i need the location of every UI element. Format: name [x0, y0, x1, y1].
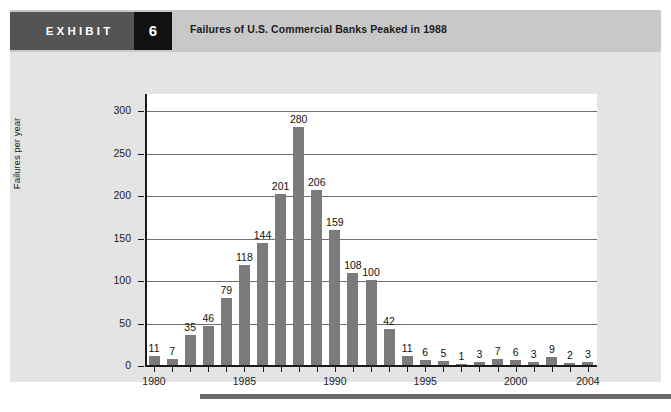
y-tick-label: 250 [91, 147, 131, 159]
x-tick-label: 1985 [219, 375, 269, 387]
y-axis-line [145, 94, 147, 366]
exhibit-number-label: 6 [134, 12, 172, 50]
x-tick-mark [552, 366, 553, 372]
bar-value-label: 46 [188, 312, 228, 324]
x-tick-mark [534, 366, 535, 372]
x-tick-mark [443, 366, 444, 372]
x-tick-mark [317, 366, 318, 372]
bar-value-label: 7 [152, 345, 192, 357]
bar-value-label: 159 [315, 216, 355, 228]
exhibit-tab-label: EXHIBIT [10, 12, 146, 50]
bar-value-label: 42 [369, 315, 409, 327]
y-tick-label: 300 [91, 104, 131, 116]
chart-panel: Failures per year 050100150200250300 117… [10, 52, 661, 382]
x-tick-mark [281, 366, 282, 372]
bar-value-label: 206 [297, 176, 337, 188]
bar [275, 194, 286, 365]
x-tick-mark [190, 366, 191, 372]
x-tick-mark [263, 366, 264, 372]
x-tick-mark [335, 366, 336, 372]
bar-value-label: 79 [206, 284, 246, 296]
x-tick-mark [516, 366, 517, 372]
y-tick-mark [138, 239, 144, 240]
y-tick-label: 150 [91, 232, 131, 244]
bar [347, 273, 358, 365]
bar [221, 298, 232, 365]
y-tick-label: 200 [91, 189, 131, 201]
y-tick-mark [138, 111, 144, 112]
gridline [145, 196, 597, 197]
x-tick-label: 2004 [563, 375, 613, 387]
y-tick-mark [138, 324, 144, 325]
gridline [145, 239, 597, 240]
x-tick-mark [353, 366, 354, 372]
gridline [145, 154, 597, 155]
x-tick-label: 1990 [310, 375, 360, 387]
x-tick-mark [172, 366, 173, 372]
x-tick-label: 1980 [129, 375, 179, 387]
y-tick-label: 100 [91, 274, 131, 286]
x-tick-mark [479, 366, 480, 372]
exhibit-tab: EXHIBIT [10, 12, 146, 50]
bar-value-label: 118 [224, 251, 264, 263]
x-tick-mark [389, 366, 390, 372]
x-tick-mark [299, 366, 300, 372]
y-tick-mark [138, 196, 144, 197]
x-tick-mark [588, 366, 589, 372]
exhibit-number-box: 6 [134, 12, 172, 50]
y-tick-mark [138, 154, 144, 155]
x-tick-mark [461, 366, 462, 372]
bar [329, 230, 340, 365]
x-tick-mark [226, 366, 227, 372]
y-tick-mark [138, 281, 144, 282]
bar [149, 356, 160, 365]
x-tick-mark [570, 366, 571, 372]
footer-rule [200, 394, 671, 399]
gridline [145, 111, 597, 112]
x-tick-mark [371, 366, 372, 372]
y-tick-label: 0 [91, 359, 131, 371]
bar-value-label: 100 [351, 266, 391, 278]
x-tick-mark [425, 366, 426, 372]
x-tick-mark [208, 366, 209, 372]
bar-value-label: 201 [261, 180, 301, 192]
exhibit-title: Failures of U.S. Commercial Banks Peaked… [190, 23, 447, 35]
x-tick-label: 1995 [400, 375, 450, 387]
x-tick-mark [244, 366, 245, 372]
x-tick-mark [407, 366, 408, 372]
y-tick-label: 50 [91, 317, 131, 329]
y-tick-mark [138, 366, 144, 367]
bar [239, 265, 250, 365]
bar-value-label: 144 [243, 229, 283, 241]
x-tick-mark [154, 366, 155, 372]
x-tick-label: 2000 [491, 375, 541, 387]
y-axis-title: Failures per year [11, 84, 22, 224]
bar-value-label: 3 [568, 348, 608, 360]
bar [293, 127, 304, 365]
x-tick-mark [498, 366, 499, 372]
bar-value-label: 280 [279, 113, 319, 125]
